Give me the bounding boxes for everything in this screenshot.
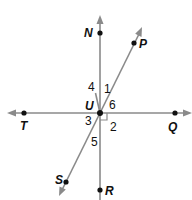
label-N: N [84, 26, 93, 40]
point-N [97, 30, 102, 35]
point-P [131, 40, 136, 45]
arrow-Q-icon [183, 110, 192, 117]
angle-label-2: 2 [110, 120, 117, 134]
label-R: R [105, 184, 114, 198]
angle-label-5: 5 [91, 135, 98, 149]
label-P: P [139, 37, 148, 51]
point-U [97, 110, 103, 116]
angle-label-4: 4 [88, 80, 95, 94]
arrow-S-icon [59, 186, 66, 196]
point-S [63, 179, 68, 184]
point-R [97, 187, 102, 192]
angle-label-3: 3 [85, 114, 92, 128]
point-Q [172, 110, 177, 115]
angle-4-leader [96, 93, 100, 110]
angle-label-6: 6 [109, 98, 116, 112]
label-S: S [55, 173, 63, 187]
label-T: T [20, 119, 29, 133]
angle-label-1: 1 [104, 82, 111, 96]
point-T [21, 110, 26, 115]
label-Q: Q [168, 120, 178, 134]
arrow-P-icon [135, 27, 142, 37]
label-U: U [85, 99, 94, 113]
arrow-N-icon [97, 15, 104, 24]
arrow-T-icon [7, 110, 16, 117]
geometry-diagram: N P T Q S R U 1 2 3 4 5 6 [0, 0, 192, 200]
